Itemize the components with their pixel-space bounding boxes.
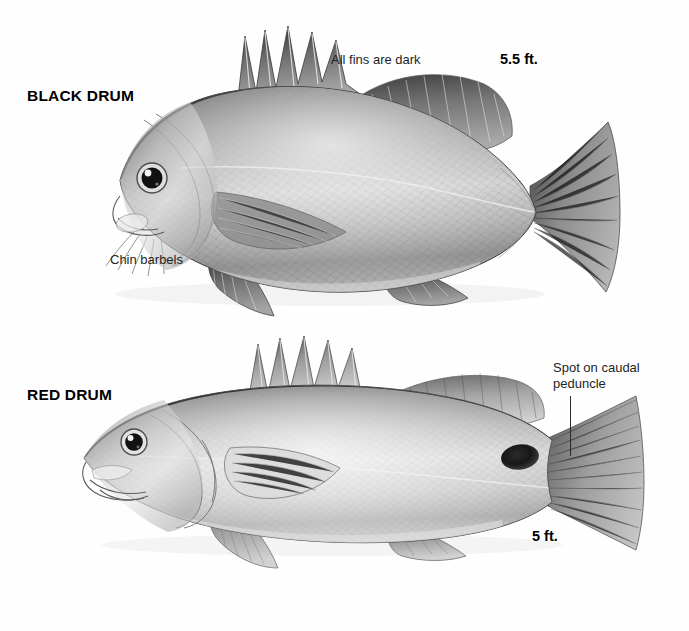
red-drum-eye [121, 429, 147, 455]
black-drum-annotation-chin-barbels: Chin barbels [110, 252, 183, 268]
black-drum-eye [137, 163, 167, 193]
black-drum-species-label: BLACK DRUM [27, 87, 134, 105]
red-drum-caudal-spot-leader-line [570, 396, 571, 456]
black-drum-size-label: 5.5 ft. [500, 51, 538, 67]
red-drum-caudal-fin [545, 396, 644, 550]
black-drum-head [120, 102, 217, 270]
red-drum-annotation-caudal-spot-line1: Spot on caudal [553, 360, 640, 376]
red-drum-size-label: 5 ft. [532, 528, 558, 544]
black-drum-annotation-fins-dark: All fins are dark [331, 52, 421, 68]
illustration-page: BLACK DRUM All fins are dark 5.5 ft. Chi… [0, 0, 689, 631]
black-drum-caudal-fin [530, 122, 620, 292]
red-drum-species-label: RED DRUM [27, 386, 112, 404]
red-drum-annotation-caudal-spot-line2: peduncle [553, 376, 606, 392]
